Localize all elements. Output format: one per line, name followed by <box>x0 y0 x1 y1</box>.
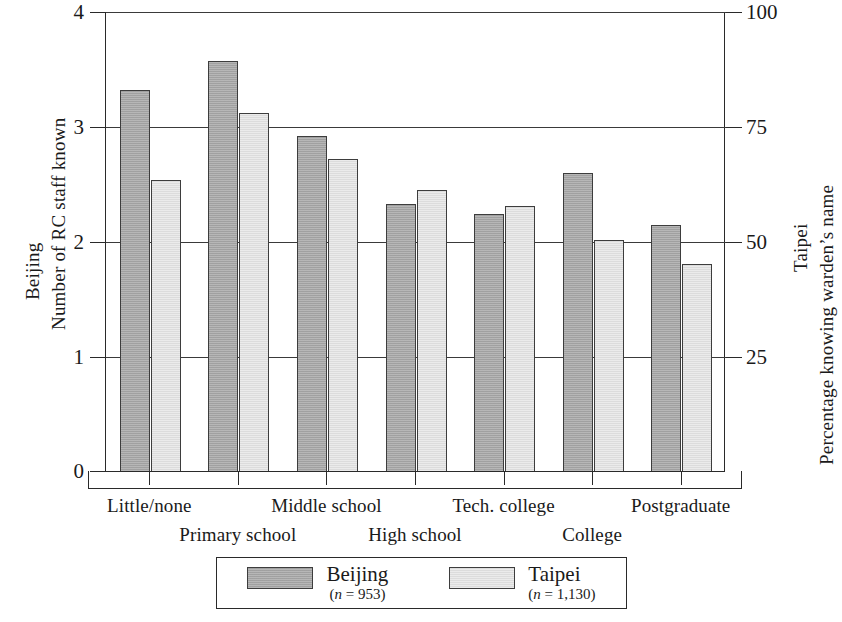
left-axis-title-measure: Number of RC staff known <box>48 118 70 330</box>
left-tick-3 <box>90 127 106 128</box>
right-tick-label-100: 100 <box>746 2 778 23</box>
right-tick-50 <box>726 242 742 243</box>
x-axis-label-2: Middle school <box>271 495 382 517</box>
left-tick-label-2: 2 <box>74 232 85 253</box>
right-tick-75 <box>726 127 742 128</box>
gridline-4 <box>106 12 726 13</box>
bar-beijing-1 <box>208 61 238 472</box>
left-tick-2 <box>90 242 106 243</box>
x-tick-5 <box>592 471 593 485</box>
gridline-3 <box>106 127 726 128</box>
bar-beijing-3 <box>386 204 416 472</box>
left-tick-4 <box>90 12 106 13</box>
bar-taipei-2 <box>328 159 358 472</box>
x-tick-4 <box>504 471 505 485</box>
right-axis-title-region: Taipei <box>790 224 812 272</box>
x-tick-1 <box>238 471 239 485</box>
x-axis-label-5: College <box>562 524 622 546</box>
bar-taipei-3 <box>417 190 447 472</box>
legend-n-rest-beijing: = 953) <box>342 586 385 602</box>
legend-n-italic-taipei: n <box>533 586 541 602</box>
x-axis-label-4: Tech. college <box>452 495 554 517</box>
plot-area: 4 3 2 1 0 100 75 50 25 <box>105 12 725 472</box>
left-tick-label-4: 4 <box>74 2 85 23</box>
left-tick-label-3: 3 <box>74 117 85 138</box>
right-tick-25 <box>726 357 742 358</box>
right-tick-100 <box>726 12 742 13</box>
legend-n-beijing: (n = 953) <box>326 587 388 603</box>
bar-beijing-6 <box>651 225 681 472</box>
legend-swatch-beijing-icon <box>247 567 313 589</box>
x-axis-label-0: Little/none <box>107 495 191 517</box>
legend-swatch-taipei-icon <box>449 567 515 589</box>
chart-legend: Beijing (n = 953) Taipei (n = 1,130) <box>216 557 627 609</box>
right-tick-label-50: 50 <box>746 232 767 253</box>
bar-beijing-2 <box>297 136 327 472</box>
bar-taipei-0 <box>151 180 181 472</box>
x-axis-label-1: Primary school <box>179 524 296 546</box>
x-tick-3 <box>415 471 416 485</box>
bar-beijing-5 <box>563 173 593 472</box>
bar-beijing-4 <box>474 214 504 472</box>
legend-n-taipei: (n = 1,130) <box>528 587 595 603</box>
left-axis-title-region: Beijing <box>22 243 44 300</box>
legend-label-taipei: Taipei <box>528 563 595 585</box>
left-tick-1 <box>90 357 106 358</box>
legend-item-beijing: Beijing (n = 953) <box>247 563 388 603</box>
left-tick-label-1: 1 <box>74 347 85 368</box>
right-tick-label-25: 25 <box>746 347 767 368</box>
x-tick-6 <box>681 471 682 485</box>
bar-beijing-0 <box>120 90 150 472</box>
x-tick-2 <box>326 471 327 485</box>
right-tick-label-75: 75 <box>746 117 767 138</box>
right-axis-title-measure: Percentage knowing warden’s name <box>816 185 838 465</box>
chart-figure: Beijing Number of RC staff known Taipei … <box>0 0 842 622</box>
left-tick-label-0: 0 <box>74 461 85 482</box>
legend-item-taipei: Taipei (n = 1,130) <box>449 563 595 603</box>
legend-label-beijing: Beijing <box>326 563 388 585</box>
bar-taipei-4 <box>505 206 535 472</box>
bar-taipei-1 <box>239 113 269 472</box>
x-axis-label-3: High school <box>368 524 461 546</box>
legend-n-italic-beijing: n <box>334 586 342 602</box>
x-tick-0 <box>149 471 150 485</box>
bar-taipei-5 <box>594 240 624 472</box>
bar-taipei-6 <box>682 264 712 472</box>
legend-n-rest-taipei: = 1,130) <box>541 586 596 602</box>
x-axis-label-6: Postgraduate <box>631 495 730 517</box>
